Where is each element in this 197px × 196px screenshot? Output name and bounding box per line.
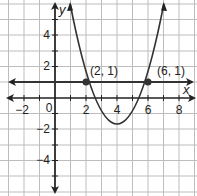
svg-text:−2: −2 bbox=[36, 122, 50, 136]
svg-text:4: 4 bbox=[43, 28, 50, 42]
parabola-arrow-right bbox=[161, 2, 167, 11]
x-tick-labels: −2 0 2 4 6 8 bbox=[15, 101, 183, 117]
parabola-arrow-left bbox=[67, 2, 73, 11]
point-2-1 bbox=[83, 79, 90, 86]
point-label-6-1: (6, 1) bbox=[157, 64, 185, 78]
point-label-2-1: (2, 1) bbox=[90, 64, 118, 78]
svg-text:2: 2 bbox=[43, 59, 50, 73]
coordinate-plane: (2, 1) (6, 1) y x −2 0 2 4 6 8 4 2 −2 −4 bbox=[0, 0, 197, 196]
svg-text:6: 6 bbox=[145, 103, 152, 117]
x-axis-label: x bbox=[182, 82, 190, 97]
svg-text:0: 0 bbox=[46, 101, 53, 115]
svg-text:8: 8 bbox=[176, 103, 183, 117]
svg-text:−4: −4 bbox=[36, 153, 50, 167]
svg-text:2: 2 bbox=[83, 103, 90, 117]
point-6-1 bbox=[145, 79, 152, 86]
svg-text:−2: −2 bbox=[15, 103, 29, 117]
svg-text:4: 4 bbox=[114, 103, 121, 117]
